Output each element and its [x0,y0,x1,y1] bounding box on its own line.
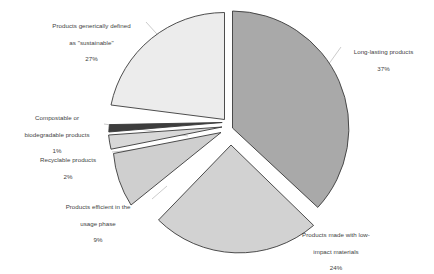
label-low-impact: Products made with low- impact materials… [286,223,386,274]
label-long-lasting: Long-lasting products 37% [336,40,431,81]
leader-line-efficient [152,186,167,199]
label-sustainable: Products generically defined as "sustain… [34,14,149,72]
label-recyclable: Recyclable products 2% [24,148,112,189]
label-efficient: Products efficient in the usage phase 9% [46,195,150,253]
